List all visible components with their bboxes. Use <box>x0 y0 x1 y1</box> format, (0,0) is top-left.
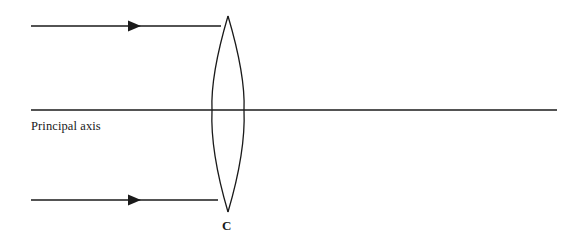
lens-center-label: C <box>222 218 231 234</box>
lens-right-surface <box>228 16 244 212</box>
upper-ray-arrow-icon <box>128 21 141 32</box>
lower-ray-arrow-icon <box>128 195 141 206</box>
principal-axis-label: Principal axis <box>31 119 101 134</box>
lens-left-surface <box>212 16 228 212</box>
optics-diagram: Principal axis C <box>0 0 572 244</box>
